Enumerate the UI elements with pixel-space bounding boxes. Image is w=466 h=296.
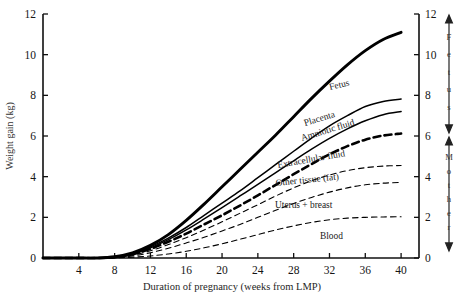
y-tick-label-left: 12: [25, 8, 37, 20]
arrow-down-icon: [446, 243, 453, 251]
y-axis-title: Weight gain (kg): [4, 102, 16, 170]
side-label-letter: u: [447, 84, 452, 94]
chart-series-labels: FetusPlacentaAmniotic fluidExtracellular…: [275, 78, 356, 241]
y-tick-label-right: 8: [425, 89, 431, 101]
series-curve-uterus-breast: [43, 182, 401, 258]
y-tick-label-left: 2: [30, 211, 36, 223]
x-tick-label: 8: [112, 264, 118, 276]
y-axis-left-ticks: 024681012: [25, 8, 49, 264]
side-label-letter: e: [447, 208, 451, 218]
side-label-letter: h: [447, 194, 452, 204]
side-label-letter: M: [445, 152, 453, 162]
x-tick-label: 28: [288, 264, 300, 276]
y-tick-label-right: 6: [425, 130, 431, 142]
series-label-blood: Blood: [320, 231, 343, 241]
y-axis-right-ticks: 024681012: [414, 8, 437, 264]
arrow-up-icon: [446, 137, 453, 145]
y-tick-label-left: 6: [30, 130, 36, 142]
x-tick-label: 12: [145, 264, 157, 276]
x-tick-label: 24: [252, 264, 264, 276]
arrow-up-icon: [446, 15, 453, 23]
y-tick-label-right: 4: [425, 171, 431, 183]
y-tick-label-right: 10: [425, 49, 437, 61]
series-label-other-tissue-fat: Other tissue (fat): [275, 171, 339, 189]
side-label-letter: t: [448, 180, 451, 190]
x-tick-label: 40: [395, 264, 407, 276]
y-tick-label-left: 0: [30, 252, 36, 264]
side-bracket-annotations: FetusMother: [445, 15, 453, 251]
chart-axes: [43, 14, 419, 258]
side-label-letter: F: [447, 32, 452, 42]
chart-canvas: 024681012 024681012 481216202428323640 F…: [0, 0, 466, 296]
chart-series-group: [43, 32, 401, 258]
x-tick-label: 16: [180, 264, 192, 276]
y-tick-label-left: 8: [30, 89, 36, 101]
arrow-down-icon: [446, 125, 453, 133]
y-tick-label-right: 0: [425, 252, 431, 264]
x-tick-label: 36: [360, 264, 372, 276]
pregnancy-weight-gain-chart: 024681012 024681012 481216202428323640 F…: [0, 0, 466, 296]
y-tick-label-right: 12: [425, 8, 437, 20]
side-label-letter: o: [447, 166, 451, 176]
series-label-uterus-breast: Uterus + breast: [275, 200, 333, 210]
x-tick-label: 32: [324, 264, 336, 276]
series-label-extracellular-fluid: Extracellular fluid: [277, 148, 346, 170]
side-label-letter: e: [447, 49, 451, 59]
y-tick-label-left: 10: [25, 49, 37, 61]
side-label-letter: r: [448, 222, 451, 232]
y-tick-label-right: 2: [425, 211, 431, 223]
x-tick-label: 4: [76, 264, 82, 276]
series-curve-extracellular-fluid: [43, 134, 401, 259]
x-tick-label: 20: [216, 264, 228, 276]
y-tick-label-left: 4: [30, 171, 36, 183]
series-curve-blood: [43, 217, 401, 258]
side-label-letter: t: [448, 67, 451, 77]
x-axis-title: Duration of pregnancy (weeks from LMP): [143, 281, 322, 293]
side-label-letter: s: [447, 102, 451, 112]
